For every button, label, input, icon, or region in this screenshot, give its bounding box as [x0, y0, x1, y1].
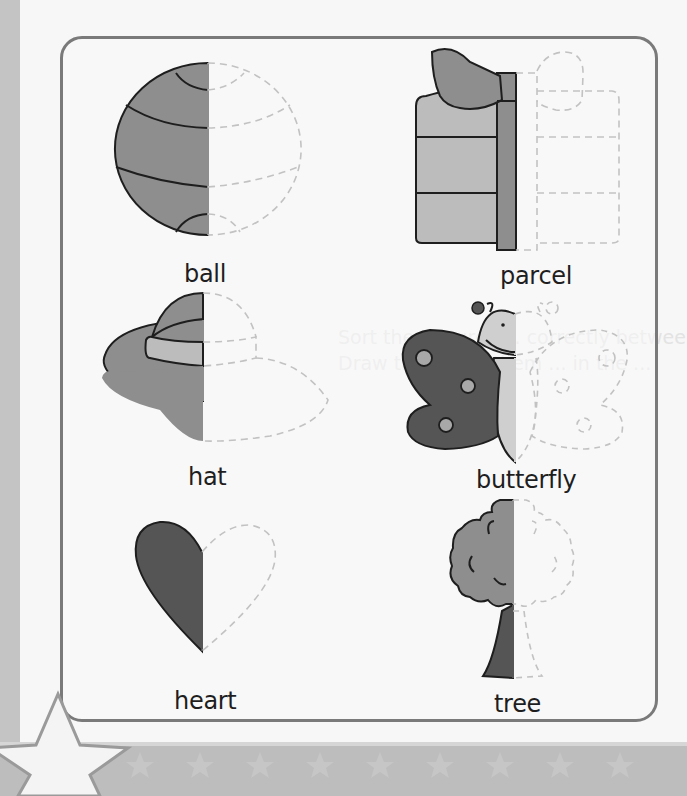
heart-picture	[136, 522, 276, 651]
label-heart: heart	[174, 689, 236, 713]
label-tree: tree	[494, 692, 541, 716]
label-hat: hat	[188, 465, 226, 489]
label-ball: ball	[184, 262, 226, 286]
label-butterfly: butterfly	[476, 468, 577, 492]
hat-picture	[102, 293, 328, 441]
parcel-picture	[416, 49, 619, 250]
corner-star-icon	[0, 690, 140, 796]
ball-picture	[115, 63, 301, 235]
butterfly-picture	[403, 302, 628, 462]
worksheet-illustrations	[0, 0, 687, 796]
tree-picture	[450, 500, 574, 678]
strip-star-pattern	[126, 752, 634, 778]
label-parcel: parcel	[500, 264, 572, 288]
